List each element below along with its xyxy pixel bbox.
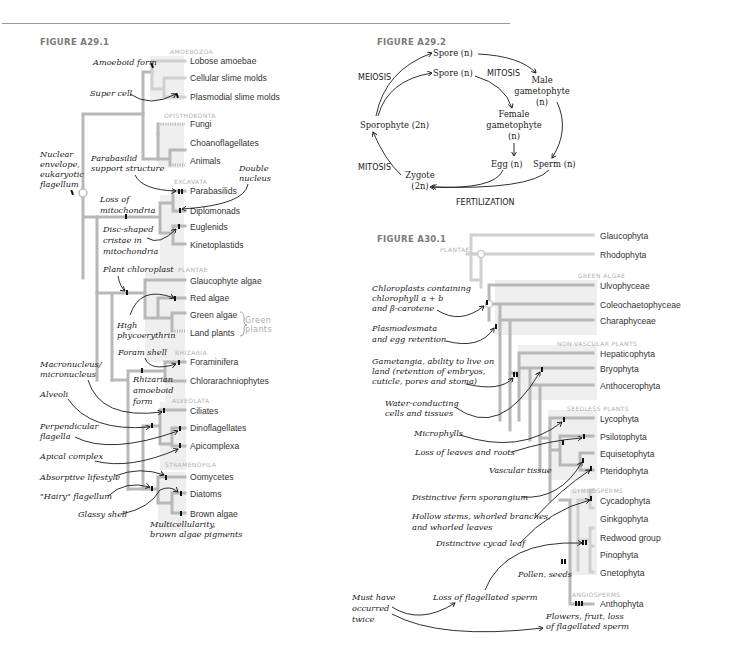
svg-text:Plasmodesmata: Plasmodesmata <box>371 323 437 333</box>
taxon: Fungi <box>190 119 212 129</box>
taxon: Dinoflagellates <box>190 423 246 433</box>
annotation-plant-chloroplast: Plant chloroplast <box>102 264 174 274</box>
svg-text:Chloroplasts containing: Chloroplasts containing <box>372 283 471 293</box>
gymnosperms-shade <box>570 490 597 575</box>
annotation-fern-sporangium: Distinctive fern sporangium <box>411 492 528 502</box>
svg-text:Macronucleus/: Macronucleus/ <box>39 359 103 369</box>
svg-text:mitochondria: mitochondria <box>100 205 155 215</box>
clade-angiosperms: ANGIOSPERMS <box>572 591 621 598</box>
svg-text:Water-conducting: Water-conducting <box>385 398 459 408</box>
taxon: Psilotophyta <box>600 432 647 442</box>
taxon: Pinophyta <box>600 550 638 560</box>
annotation-cycad-leaf: Distinctive cycad leaf <box>435 538 527 548</box>
annotation-plasmodesmata: Plasmodesmata and egg retention <box>371 323 446 344</box>
annotation-multicellularity: Multicellularity, brown algae pigments <box>149 519 243 539</box>
taxon: Ciliates <box>190 406 218 416</box>
svg-text:Gametangia, ability to live on: Gametangia, ability to live on <box>372 356 494 366</box>
clade-non-vascular: NON-VASCULAR PLANTS <box>557 340 637 347</box>
node-egg: Egg (n) <box>491 159 522 169</box>
svg-text:and whorled leaves: and whorled leaves <box>412 522 492 532</box>
annotation-macronucleus: Macronucleus/ micronucleus <box>39 359 103 379</box>
svg-text:cuticle, pores and stoma): cuticle, pores and stoma) <box>372 376 477 386</box>
annotation-perpendicular: Perpendicular flagella <box>39 421 99 441</box>
taxon: Cellular slime molds <box>190 73 267 83</box>
root-node <box>79 189 87 197</box>
svg-text:High: High <box>116 320 137 330</box>
taxon: Red algae <box>190 293 229 303</box>
annotation-hollow-stems: Hollow stems, whorled branches, and whor… <box>411 511 551 532</box>
svg-text:flagellum: flagellum <box>39 179 79 189</box>
taxon: Glaucophyte algae <box>190 276 262 286</box>
annotation-loss-leaves-roots: Loss of leaves and roots <box>414 447 515 457</box>
svg-text:gametophyte: gametophyte <box>514 86 570 96</box>
taxon: Redwood group <box>600 533 661 543</box>
annotation-absorptive: Absorptive lifestyle <box>39 472 120 482</box>
node-sperm: Sperm (n) <box>533 159 576 169</box>
svg-text:gametophyte: gametophyte <box>486 120 542 130</box>
clade-gymnosperms: GYMNOSPERMS <box>572 487 623 494</box>
clade-amoebozoa: AMOEBOZOA <box>170 48 213 55</box>
taxon: Cycadophyta <box>600 496 650 506</box>
taxon: Anthophyta <box>600 599 644 609</box>
svg-text:flagella: flagella <box>39 431 71 441</box>
annotation-hairy-flagellum: "Hairy" flagellum <box>40 491 112 501</box>
annotation-amoeboid-form: Amoeboid form <box>92 57 157 67</box>
annotation-microphylls: Microphylls <box>413 428 463 438</box>
taxon: Glaucophyta <box>600 231 648 241</box>
node-male-gametophyte: Male gametophyte (n) <box>514 75 570 107</box>
taxon: Gnetophyta <box>600 568 645 578</box>
taxon: Ulvophyceae <box>600 281 650 291</box>
node-spore-2: Spore (n) <box>433 68 473 78</box>
annotation-chloroplasts: Chloroplasts containing chlorophyll a + … <box>372 283 471 313</box>
annotation-glassy-shell: Glassy shell <box>78 509 128 519</box>
svg-text:(n): (n) <box>508 131 520 141</box>
svg-text:envelope,: envelope, <box>40 159 80 169</box>
svg-text:cells and tissues: cells and tissues <box>385 408 453 418</box>
annotation-foram-shell: Foram shell <box>117 347 167 357</box>
clade-alveolata: ALVEOLATA <box>172 397 210 404</box>
svg-text:twice: twice <box>352 614 375 624</box>
taxon: Animals <box>190 156 221 166</box>
annotation-gametangia: Gametangia, ability to live on land (ret… <box>372 356 494 386</box>
svg-text:Disc-shaped: Disc-shaped <box>102 224 153 234</box>
svg-text:phycoerythrin: phycoerythrin <box>117 330 175 340</box>
svg-text:Double: Double <box>238 163 269 173</box>
annotation-flowers-fruit: Flowers, fruit, loss of flagellated sper… <box>545 611 629 631</box>
svg-text:Perpendicular: Perpendicular <box>39 421 99 431</box>
clade-green-algae: GREEN ALGAE <box>578 272 625 279</box>
taxon: Lycophyta <box>600 414 639 424</box>
taxon: Charaphyceae <box>600 316 656 326</box>
svg-text:Must have: Must have <box>351 592 396 602</box>
taxon: Anthocerophyta <box>600 381 660 391</box>
svg-text:and β-carotene: and β-carotene <box>372 303 434 313</box>
clade-opisthokonta: OPISTHOKONTA <box>164 112 216 119</box>
svg-text:Parabasilid: Parabasilid <box>90 153 137 163</box>
taxon: Kinetoplastids <box>190 240 244 250</box>
taxon: Ginkgophyta <box>600 514 648 524</box>
taxon: Green algae <box>190 310 238 320</box>
taxon: Oomycetes <box>190 472 233 482</box>
taxon: Bryophyta <box>600 364 639 374</box>
svg-text:Zygote: Zygote <box>405 170 434 180</box>
annotation-nuclear-envelope: Nuclear envelope, eukaryotic flagellum <box>39 149 84 189</box>
annotation-loss-mitochondria: Loss of mitochondria <box>99 194 155 215</box>
svg-text:support structure: support structure <box>91 163 164 173</box>
svg-text:micronucleus: micronucleus <box>40 369 96 379</box>
figure-a29-1-tree: AMOEBOZOA OPISTHOKONTA EXCAVATA PLANTAE … <box>39 48 280 539</box>
annotation-super-cell: Super cell <box>90 88 133 98</box>
svg-text:Multicellularity,: Multicellularity, <box>149 519 216 529</box>
clade-seedless: SEEDLESS PLANTS <box>567 405 629 412</box>
taxon: Choanoflagellates <box>190 138 259 148</box>
node-spore-1: Spore (n) <box>433 48 473 58</box>
clade-plantae: PLANTAE <box>440 246 470 253</box>
svg-text:Loss of: Loss of <box>99 194 131 204</box>
taxon: Equisetophyta <box>600 449 655 459</box>
annotation-vascular-tissue: Vascular tissue <box>489 465 552 475</box>
process-mitosis-top: MITOSIS <box>487 69 520 78</box>
annotation-must-have-occurred-twice: Must have occurred twice <box>351 592 396 624</box>
svg-text:cristae in: cristae in <box>103 235 142 245</box>
green-plants-label: Green <box>245 316 271 325</box>
process-fertilization: FERTILIZATION <box>456 198 515 207</box>
svg-text:eukaryotic: eukaryotic <box>40 169 84 179</box>
figure-a30-1-tree: PLANTAE GREEN ALGAE NON-VASCULAR PLANTS … <box>351 231 681 632</box>
